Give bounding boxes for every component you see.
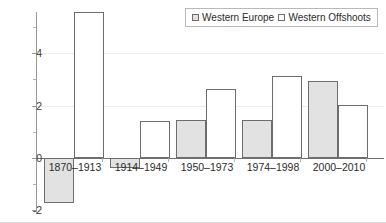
bar-europe-2000-2010 xyxy=(308,81,338,158)
bar-offshoots-1974-1998 xyxy=(272,76,302,158)
bar-europe-1950-1973 xyxy=(176,120,206,158)
legend-label-western-offshoots: Western Offshoots xyxy=(288,12,370,23)
bar-offshoots-1914-1949 xyxy=(140,121,170,158)
chart-legend: Western Europe Western Offshoots xyxy=(185,8,378,27)
legend-item-western-europe[interactable]: Western Europe xyxy=(192,12,274,23)
y-axis-label-4: 4 xyxy=(20,48,42,58)
bar-europe-1974-1998 xyxy=(242,120,272,158)
y-tick-minor-3 xyxy=(33,79,36,80)
legend-label-western-europe: Western Europe xyxy=(202,12,274,23)
y-tick-minor-neg1 xyxy=(33,184,36,185)
y-axis-label-2: 2 xyxy=(20,101,42,111)
legend-swatch-icon-western-europe xyxy=(192,14,199,21)
y-axis-line xyxy=(36,12,37,214)
bottom-rule xyxy=(0,222,386,223)
x-axis-label-2000-2010: 2000–2010 xyxy=(294,161,384,173)
legend-swatch-icon-western-offshoots xyxy=(278,14,285,21)
zero-baseline xyxy=(36,158,384,159)
y-tick-minor-1 xyxy=(33,132,36,133)
legend-item-western-offshoots[interactable]: Western Offshoots xyxy=(278,12,370,23)
plot-area: 4 2 0 -2 1870–1913 1914–1949 1950–1973 1… xyxy=(36,8,384,214)
bar-offshoots-1870-1913 xyxy=(74,12,104,158)
y-axis-label-neg2: -2 xyxy=(20,205,42,215)
bar-offshoots-2000-2010 xyxy=(338,105,368,158)
y-tick-minor-5 xyxy=(33,27,36,28)
bar-offshoots-1950-1973 xyxy=(206,89,236,158)
bar-chart: 4 2 0 -2 1870–1913 1914–1949 1950–1973 1… xyxy=(0,0,386,223)
